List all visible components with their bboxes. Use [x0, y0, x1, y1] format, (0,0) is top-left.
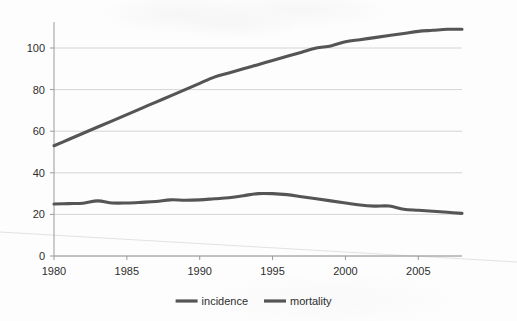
x-tick-marks [54, 256, 418, 260]
y-tick-label: 20 [33, 208, 45, 220]
x-tick-label: 2000 [333, 265, 357, 277]
x-tick-labels: 198019851990199520002005 [42, 265, 431, 277]
gridlines [54, 48, 462, 256]
y-tick-marks [50, 48, 54, 256]
x-tick-label: 1990 [187, 265, 211, 277]
series-line-mortality [54, 193, 462, 213]
series-line-incidence [54, 29, 462, 146]
x-tick-label: 1980 [42, 265, 66, 277]
x-tick-label: 1985 [115, 265, 139, 277]
y-tick-label: 80 [33, 84, 45, 96]
y-tick-label: 40 [33, 167, 45, 179]
line-chart: 020406080100 198019851990199520002005 in… [0, 0, 517, 321]
x-tick-label: 1995 [260, 265, 284, 277]
y-tick-label: 0 [39, 250, 45, 262]
legend-label-mortality: mortality [290, 295, 332, 307]
scan-artifact-line [0, 232, 517, 262]
y-tick-label: 60 [33, 125, 45, 137]
series-lines [54, 29, 462, 213]
chart-legend: incidencemortality [176, 295, 332, 307]
x-tick-label: 2005 [406, 265, 430, 277]
chart-page: 020406080100 198019851990199520002005 in… [0, 0, 517, 321]
legend-label-incidence: incidence [202, 295, 248, 307]
y-tick-labels: 020406080100 [27, 42, 45, 262]
y-tick-label: 100 [27, 42, 45, 54]
